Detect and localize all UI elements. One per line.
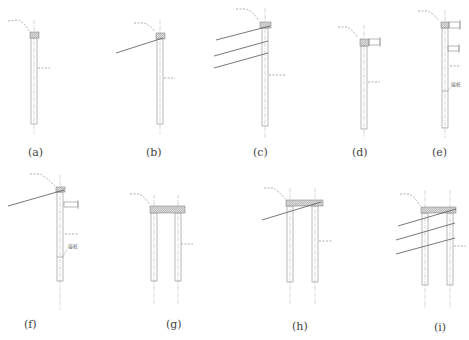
panel-d: (d) — [338, 25, 380, 159]
panel-i: (i) — [396, 190, 466, 334]
anchor-rod — [116, 38, 163, 53]
ground-line — [400, 194, 420, 206]
panel-g: (g) — [130, 194, 193, 331]
strut-1 — [449, 22, 460, 28]
panel-b: (b) — [116, 20, 175, 159]
splice-annotation-f: 接桩 — [68, 243, 78, 250]
panel-c: (c) — [214, 8, 286, 159]
pile-cap — [156, 33, 165, 39]
panel-e: 接桩 (e) — [418, 10, 461, 159]
ground-line — [264, 188, 285, 199]
panel-label-d: (d) — [352, 146, 368, 159]
panel-label-g: (g) — [166, 318, 182, 331]
capping-beam — [150, 206, 185, 213]
ground-line — [130, 194, 150, 205]
anchor-rod-3 — [214, 53, 268, 68]
panel-label-h: (h) — [292, 320, 308, 333]
panel-h: (h) — [262, 188, 332, 333]
pile-diagram: (a) (b) (c) (d) — [0, 0, 469, 340]
leader-line — [63, 249, 67, 257]
panel-label-f: (f) — [24, 318, 37, 331]
leader-line — [448, 87, 451, 91]
splice-annotation-e: 接桩 — [451, 81, 461, 88]
ground-line — [8, 20, 29, 31]
panel-a: (a) — [8, 20, 50, 159]
strut-2 — [448, 46, 459, 51]
panel-label-b: (b) — [146, 146, 162, 159]
panel-label-i: (i) — [434, 321, 446, 334]
ground-line — [134, 23, 155, 32]
capping-beam — [421, 207, 456, 213]
ground-line — [236, 9, 259, 21]
ground-line — [418, 11, 439, 21]
anchor-rod-2 — [396, 223, 455, 240]
pile-cap — [441, 22, 449, 28]
pile-cap — [30, 32, 39, 38]
pile-cap — [360, 39, 369, 46]
ground-line — [30, 174, 55, 186]
panel-label-c: (c) — [253, 146, 268, 159]
strut — [369, 39, 380, 45]
anchor-rod-2 — [214, 41, 268, 56]
anchor-rod — [8, 190, 64, 206]
panel-label-a: (a) — [28, 146, 43, 159]
strut — [64, 202, 78, 207]
panel-label-e: (e) — [432, 146, 447, 159]
anchor-rod-3 — [396, 238, 455, 254]
panel-f: 接桩 (f) — [8, 174, 78, 331]
ground-line — [338, 27, 358, 38]
